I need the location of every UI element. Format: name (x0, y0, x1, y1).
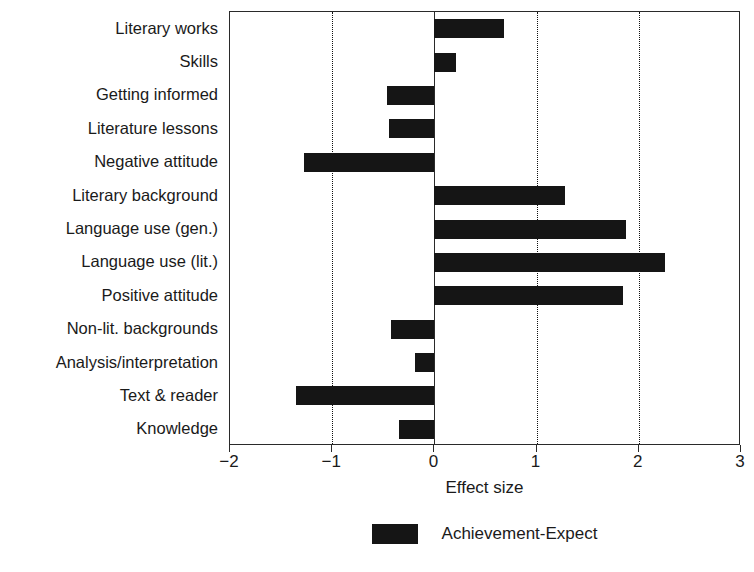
plot-inner (230, 12, 739, 444)
x-axis-tick (331, 445, 332, 452)
x-axis-tick-label: 1 (514, 452, 558, 472)
bar (387, 86, 434, 105)
bar (434, 53, 455, 72)
plot-area (229, 11, 740, 445)
legend-swatch-achievement-expect (372, 524, 418, 544)
bar (434, 253, 665, 272)
y-axis-label: Literary background (0, 186, 218, 204)
bar (391, 320, 434, 339)
y-axis-label: Literary works (0, 19, 218, 37)
bar (434, 186, 565, 205)
y-axis-label: Skills (0, 52, 218, 70)
gridline-2 (639, 12, 640, 444)
x-axis-tick-label: −1 (309, 452, 353, 472)
y-axis-label: Literature lessons (0, 119, 218, 137)
bar (399, 420, 435, 439)
bar (296, 386, 434, 405)
chart-figure: Literary worksSkillsGetting informedLite… (0, 0, 754, 572)
y-axis-label: Language use (lit.) (0, 252, 218, 270)
x-axis-tick-label: 0 (411, 452, 455, 472)
x-axis-tick (536, 445, 537, 452)
x-axis-tick (638, 445, 639, 452)
bar (434, 286, 623, 305)
y-axis-label: Language use (gen.) (0, 219, 218, 237)
y-axis-label: Positive attitude (0, 286, 218, 304)
gridline--1 (332, 12, 333, 444)
x-axis-tick (229, 445, 230, 452)
bar (434, 19, 503, 38)
x-axis-tick-label: −2 (207, 452, 251, 472)
legend-label-achievement-expect: Achievement-Expect (442, 524, 598, 544)
y-axis-label: Getting informed (0, 85, 218, 103)
x-axis-title: Effect size (229, 478, 740, 498)
x-axis-tick-label: 2 (616, 452, 660, 472)
y-axis-label: Negative attitude (0, 152, 218, 170)
chart-legend: Achievement-Expect (229, 524, 740, 544)
x-axis-tick (740, 445, 741, 452)
bar (415, 353, 434, 372)
y-axis-label: Text & reader (0, 386, 218, 404)
y-axis-label: Analysis/interpretation (0, 353, 218, 371)
x-axis-tick (433, 445, 434, 452)
y-axis-label: Knowledge (0, 419, 218, 437)
x-axis-tick-label: 3 (718, 452, 754, 472)
bar (304, 153, 435, 172)
bar (389, 119, 434, 138)
y-axis-category-labels: Literary worksSkillsGetting informedLite… (0, 11, 218, 445)
bar (434, 220, 625, 239)
y-axis-label: Non-lit. backgrounds (0, 319, 218, 337)
